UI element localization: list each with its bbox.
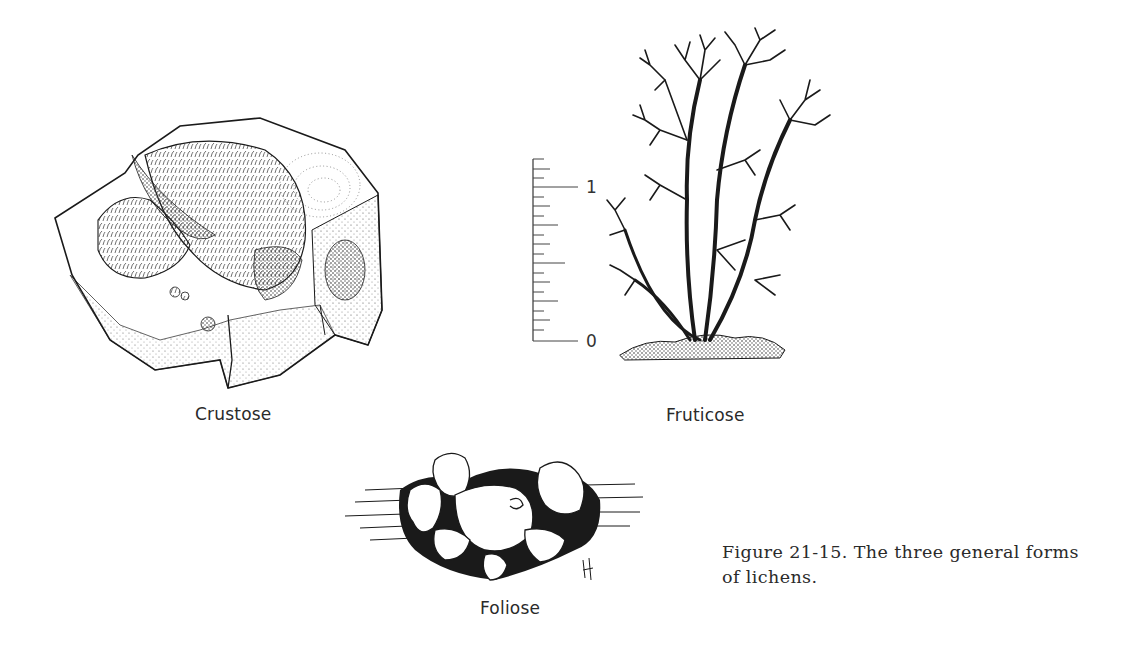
caption-line-1: Figure 21-15. The three general forms: [722, 540, 1122, 565]
scale-ruler-drawing: [530, 155, 590, 355]
foliose-leafy-drawing: [345, 440, 645, 590]
figure-caption: Figure 21-15. The three general forms of…: [722, 540, 1122, 590]
crustose-rock-drawing: [50, 110, 450, 400]
foliose-label: Foliose: [480, 598, 540, 618]
crustose-label: Crustose: [195, 404, 271, 424]
foliose-illustration: [345, 440, 645, 590]
crustose-illustration: [50, 110, 450, 400]
scale-label-1: 1: [586, 177, 597, 197]
fruticose-label: Fruticose: [666, 405, 745, 425]
caption-line-2: of lichens.: [722, 565, 1122, 590]
fruticose-illustration: [605, 20, 845, 365]
artist-signature: [583, 558, 593, 580]
fruticose-shrub-drawing: [605, 20, 845, 365]
scale-bar: [530, 155, 590, 355]
scale-label-0: 0: [586, 331, 597, 351]
